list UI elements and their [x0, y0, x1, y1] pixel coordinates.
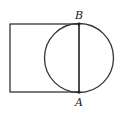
- point-a-label: A: [74, 96, 83, 109]
- point-a-dot: [77, 90, 80, 93]
- point-b-label: B: [74, 9, 83, 22]
- geometry-diagram: B A: [0, 0, 121, 113]
- point-b-dot: [77, 22, 80, 25]
